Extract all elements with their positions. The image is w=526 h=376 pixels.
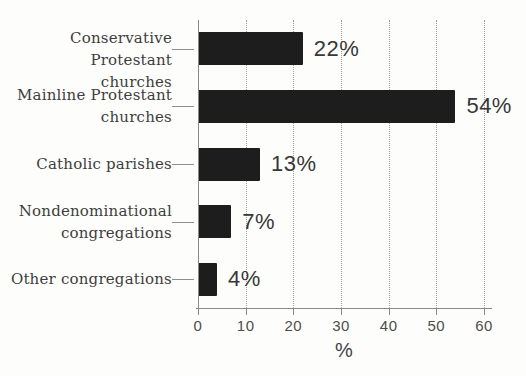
data-label-5: 4% bbox=[228, 267, 261, 291]
bar-1 bbox=[198, 32, 303, 65]
data-label-3: 13% bbox=[271, 152, 317, 176]
category-label-3: Catholic parishes bbox=[0, 153, 172, 175]
x-tick-50 bbox=[436, 308, 437, 315]
x-tick-40 bbox=[389, 308, 390, 315]
category-label-5: Other congregations bbox=[0, 268, 172, 290]
x-axis-title: % bbox=[335, 340, 353, 360]
bar-4 bbox=[198, 205, 231, 238]
category-label-4: Nondenominational congregations bbox=[0, 200, 172, 244]
x-tick-label-50: 50 bbox=[427, 318, 445, 334]
gridline-30 bbox=[341, 20, 342, 308]
x-tick-label-40: 40 bbox=[380, 318, 398, 334]
y-axis-line bbox=[198, 20, 199, 315]
leader-line-1 bbox=[172, 49, 194, 50]
x-tick-label-0: 0 bbox=[194, 318, 203, 334]
leader-line-5 bbox=[172, 279, 194, 280]
x-tick-label-30: 30 bbox=[332, 318, 350, 334]
x-tick-label-20: 20 bbox=[284, 318, 302, 334]
x-tick-label-60: 60 bbox=[475, 318, 493, 334]
leader-line-3 bbox=[172, 164, 194, 165]
leader-line-2 bbox=[172, 106, 194, 107]
x-tick-30 bbox=[341, 308, 342, 315]
data-label-2: 54% bbox=[466, 94, 512, 118]
x-tick-60 bbox=[484, 308, 485, 315]
data-label-1: 22% bbox=[314, 37, 360, 61]
x-tick-0 bbox=[198, 308, 199, 315]
bar-5 bbox=[198, 263, 217, 296]
gridline-60 bbox=[484, 20, 485, 308]
bar-chart-figure: Conservative Protestant churchesMainline… bbox=[0, 0, 526, 376]
gridline-40 bbox=[389, 20, 390, 308]
bar-2 bbox=[198, 90, 455, 123]
category-label-2: Mainline Protestant churches bbox=[0, 84, 172, 128]
bar-3 bbox=[198, 148, 260, 181]
gridline-50 bbox=[436, 20, 437, 308]
category-label-1: Conservative Protestant churches bbox=[0, 27, 172, 93]
x-axis-line bbox=[196, 308, 492, 309]
x-tick-label-10: 10 bbox=[237, 318, 255, 334]
leader-line-4 bbox=[172, 222, 194, 223]
data-label-4: 7% bbox=[242, 210, 275, 234]
x-tick-10 bbox=[246, 308, 247, 315]
x-tick-20 bbox=[293, 308, 294, 315]
